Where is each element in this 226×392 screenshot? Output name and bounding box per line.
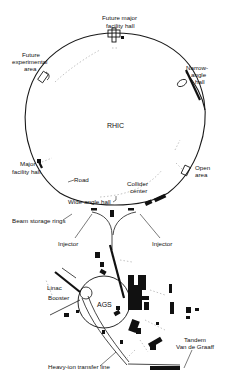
label-road: Road <box>74 176 89 183</box>
label-collider-center-1: Collider <box>127 180 148 187</box>
injector-lines <box>75 212 160 250</box>
tandem-van-de-graaff <box>128 350 192 370</box>
label-wide-angle-hall: Wide-angle hall <box>68 198 111 205</box>
beam-storage-ring-markers <box>91 208 134 217</box>
future-major-facility-hall <box>108 28 124 42</box>
rhic-ring <box>25 33 205 205</box>
label-collider-center-2: center <box>130 187 147 194</box>
label-narrow-angle-hall-3: hall <box>195 78 205 85</box>
major-facility-hall <box>37 158 52 168</box>
label-future-major-facility-hall-2: facility hall <box>106 22 135 29</box>
label-future-experimental-area-2: experimental <box>12 58 47 65</box>
collider-center <box>144 194 166 206</box>
label-van-de-graaff: Van de Graaff <box>176 343 214 350</box>
label-open-area-2: area <box>195 171 208 178</box>
label-narrow-angle-hall-1: Narrow- <box>186 64 208 71</box>
label-major-facility-hall-1: Major <box>20 160 35 167</box>
label-open-area-1: Open <box>195 164 211 171</box>
label-future-experimental-area-1: Future <box>22 51 40 58</box>
label-injector-right: Injector <box>152 240 172 247</box>
label-ags: AGS <box>97 301 112 308</box>
label-injector-left: Injector <box>58 240 78 247</box>
label-future-major-facility-hall-1: Future major <box>102 14 137 21</box>
open-area <box>176 163 190 176</box>
label-tandem: Tandem <box>184 336 206 343</box>
label-rhic: RHIC <box>107 122 124 129</box>
label-beam-storage-rings: Beam storage rings <box>12 217 66 224</box>
label-major-facility-hall-2: facility hall <box>12 168 41 175</box>
label-narrow-angle-hall-2: angle <box>191 71 207 78</box>
ags-complex <box>50 245 130 365</box>
rhic-site-diagram: Future major facility hall Future experi… <box>0 0 226 392</box>
future-experimental-area <box>38 71 49 83</box>
label-heavy-ion-transfer-line: Heavy-ion transfer line <box>48 363 110 370</box>
label-future-experimental-area-3: area <box>24 65 37 72</box>
label-booster: Booster <box>48 294 69 301</box>
